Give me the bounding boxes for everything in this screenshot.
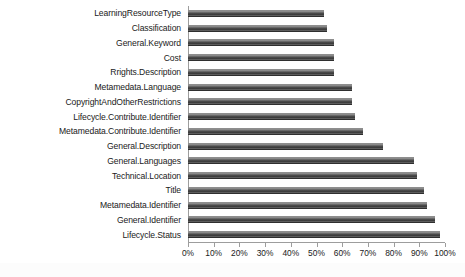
value-axis-tick [291,243,292,247]
bar-row [188,168,445,183]
value-axis-tick [188,243,189,247]
bar [188,39,334,46]
category-label: Cost [0,50,185,65]
category-label: General.Languages [0,154,185,169]
value-axis-tick [317,243,318,247]
value-axis-tick [239,243,240,247]
bar [188,10,324,17]
bar [188,143,383,150]
value-axis-tick-label: 60% [334,248,351,258]
category-label: Title [0,183,185,198]
bar-row [188,109,445,124]
bar-chart: LearningResourceTypeClassificationGenera… [0,0,465,277]
bar [188,69,334,76]
bar [188,231,440,238]
bar-row [188,36,445,51]
value-axis-tick-label: 100% [434,248,455,258]
bar-row [188,183,445,198]
bar-row [188,154,445,169]
category-label: CopyrightAndOtherRestrictions [0,95,185,110]
bar [188,202,427,209]
category-label: General.Description [0,139,185,154]
bar [188,128,363,135]
bar [188,98,352,105]
value-axis-tick [265,243,266,247]
value-axis-tick-label: 20% [231,248,248,258]
value-axis-tick-labels: 0%10%20%30%40%50%60%70%80%90%100% [188,248,445,262]
category-label: LearningResourceType [0,6,185,21]
bar [188,187,424,194]
category-label: General.Keyword [0,36,185,51]
value-axis-tick-label: 50% [308,248,325,258]
bar-row [188,65,445,80]
bar-row [188,198,445,213]
bar-row [188,227,445,242]
bar-row [188,124,445,139]
canvas-bottom-margin [0,263,465,277]
category-label: Classification [0,21,185,36]
bar-row [188,21,445,36]
plot-area [188,6,445,242]
bar-row [188,6,445,21]
bar [188,157,414,164]
value-axis-tick [419,243,420,247]
category-axis-labels: LearningResourceTypeClassificationGenera… [0,6,185,242]
value-axis-tick [445,243,446,247]
category-label: Lifecycle.Status [0,227,185,242]
value-axis-tick [342,243,343,247]
bar [188,54,334,61]
value-axis-tick [368,243,369,247]
bar [188,172,417,179]
category-label: Lifecycle.Contribute.Identifier [0,109,185,124]
category-label: Metamedata.Language [0,80,185,95]
category-label: Technical.Location [0,168,185,183]
bar-row [188,213,445,228]
value-axis-ticks [188,243,445,247]
value-axis-tick-label: 0% [182,248,194,258]
category-label: General.Identifier [0,213,185,228]
value-axis-tick-label: 80% [385,248,402,258]
category-label: Metamedata.Contribute.Identifier [0,124,185,139]
bar [188,84,352,91]
value-axis-tick [214,243,215,247]
value-axis-tick-label: 70% [360,248,377,258]
category-label: Rrights.Description [0,65,185,80]
value-axis-tick-label: 40% [282,248,299,258]
bar [188,113,355,120]
bar-row [188,80,445,95]
value-axis-tick [394,243,395,247]
bar-rows [188,6,445,242]
bar [188,216,435,223]
bar [188,25,327,32]
bar-row [188,139,445,154]
value-axis-tick-label: 30% [257,248,274,258]
category-label: Metamedata.Identifier [0,198,185,213]
bar-row [188,50,445,65]
value-axis-tick-label: 10% [205,248,222,258]
bar-row [188,95,445,110]
value-axis-tick-label: 90% [411,248,428,258]
